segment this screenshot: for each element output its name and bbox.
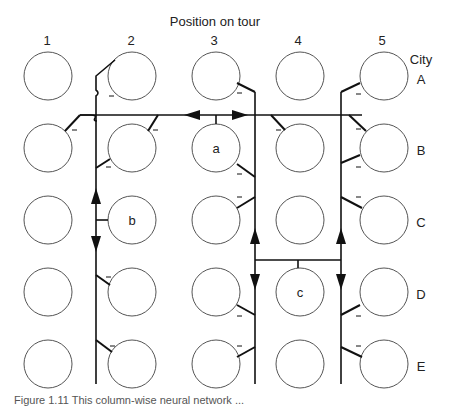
neuron-2A [108,52,156,100]
neuron-3C [192,196,240,244]
position-label-2: 2 [127,33,134,48]
tap-4B [271,115,285,130]
city-label-a: A [417,72,426,87]
city-label-d: D [416,287,425,302]
neuron-4B [276,124,324,172]
tap-5A [341,83,360,92]
tap-3E [237,347,255,357]
arrow-down-icon [250,274,260,290]
neuron-3A [192,52,240,100]
tap-3D [237,305,255,315]
figure-caption: Figure 1.11 This column-wise neural netw… [14,394,244,406]
tap-3A [237,83,255,92]
neuron-1A [24,52,72,100]
neuron-label-c: c [297,285,304,300]
neuron-5C [360,196,408,244]
city-label-e: E [417,359,426,374]
neuron-1C [24,196,72,244]
neuron-1E [24,340,72,388]
neuron-3D [192,268,240,316]
tap-2E [96,340,112,352]
neuron-5D [360,268,408,316]
arrow-down-icon [336,274,346,290]
position-label-4: 4 [294,33,301,48]
position-label-1: 1 [43,33,50,48]
neuron-3E [192,340,240,388]
arrow-left-icon [184,110,200,120]
neuron-5A [360,52,408,100]
arrow-right-icon [232,110,248,120]
tap-5B-col [341,155,360,163]
position-on-tour-title: Position on tour [170,14,261,29]
tap-1B [65,115,80,131]
neuron-1D [24,268,72,316]
neuron-label-a: a [212,141,220,156]
tap-5E [341,347,362,357]
position-label-3: 3 [210,33,217,48]
neuron-2D [108,268,156,316]
city-label-c: C [416,215,425,230]
neuron-5B [360,124,408,172]
neuron-grid [24,52,408,388]
arrow-up-icon [336,228,346,244]
neuron-4C [276,196,324,244]
arrow-down-icon [91,236,101,252]
tap-5C [341,197,362,208]
neuron-label-b: b [128,213,135,228]
tap-3C [237,197,255,208]
tap-5D [341,305,360,315]
arrow-up-icon [91,188,101,204]
row-b-bus-hop [80,115,97,121]
neuron-2E [108,340,156,388]
neuron-4A [276,52,324,100]
city-heading: City [410,52,433,67]
tap-3B [237,164,255,177]
neuron-1B [24,124,72,172]
position-label-5: 5 [378,33,385,48]
neuron-4E [276,340,324,388]
arrow-up-icon [250,228,260,244]
neuron-5E [360,340,408,388]
tap-2B [148,115,158,131]
city-label-b: B [417,143,426,158]
